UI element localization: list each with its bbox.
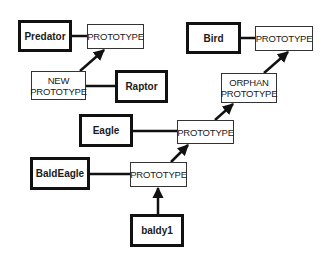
prototype-label: PROTOTYPE bbox=[130, 169, 187, 180]
prototype-predator: PROTOTYPE bbox=[87, 24, 144, 49]
object-baldeagle: BaldEagle bbox=[30, 157, 90, 190]
object-label: Raptor bbox=[125, 81, 157, 92]
prototype-label-line2: PROTOTYPE bbox=[30, 86, 87, 97]
object-bird: Bird bbox=[186, 22, 241, 54]
object-label: Bird bbox=[204, 33, 224, 44]
prototype-label-line1: NEW bbox=[48, 75, 70, 86]
prototype-orphan: ORPHANPROTOTYPE bbox=[221, 73, 277, 103]
object-label: BaldEagle bbox=[36, 168, 84, 179]
object-eagle: Eagle bbox=[79, 114, 133, 147]
prototype-chain-diagram: Predator Raptor Bird Eagle BaldEagle bal… bbox=[0, 0, 328, 262]
prototype-bird: PROTOTYPE bbox=[255, 26, 313, 51]
prototype-label-line1: ORPHAN bbox=[229, 77, 268, 88]
object-baldy1: baldy1 bbox=[130, 214, 184, 247]
prototype-label: PROTOTYPE bbox=[87, 31, 144, 42]
object-raptor: Raptor bbox=[115, 70, 168, 103]
prototype-label: NEWPROTOTYPE bbox=[30, 75, 87, 97]
prototype-arrow bbox=[171, 145, 188, 162]
object-label: Predator bbox=[24, 31, 65, 42]
object-label: baldy1 bbox=[141, 225, 173, 236]
prototype-label: PROTOTYPE bbox=[177, 127, 234, 138]
object-predator: Predator bbox=[18, 20, 72, 52]
prototype-label: PROTOTYPE bbox=[256, 33, 313, 44]
prototype-new: NEWPROTOTYPE bbox=[31, 71, 86, 100]
prototype-baldeagle: PROTOTYPE bbox=[130, 162, 187, 187]
object-label: Eagle bbox=[93, 125, 120, 136]
prototype-arrow bbox=[264, 52, 288, 73]
prototype-arrow bbox=[80, 50, 104, 71]
prototype-eagle: PROTOTYPE bbox=[177, 120, 234, 144]
prototype-arrow bbox=[215, 104, 233, 120]
prototype-label: ORPHANPROTOTYPE bbox=[221, 77, 278, 99]
prototype-label-line2: PROTOTYPE bbox=[221, 88, 278, 99]
